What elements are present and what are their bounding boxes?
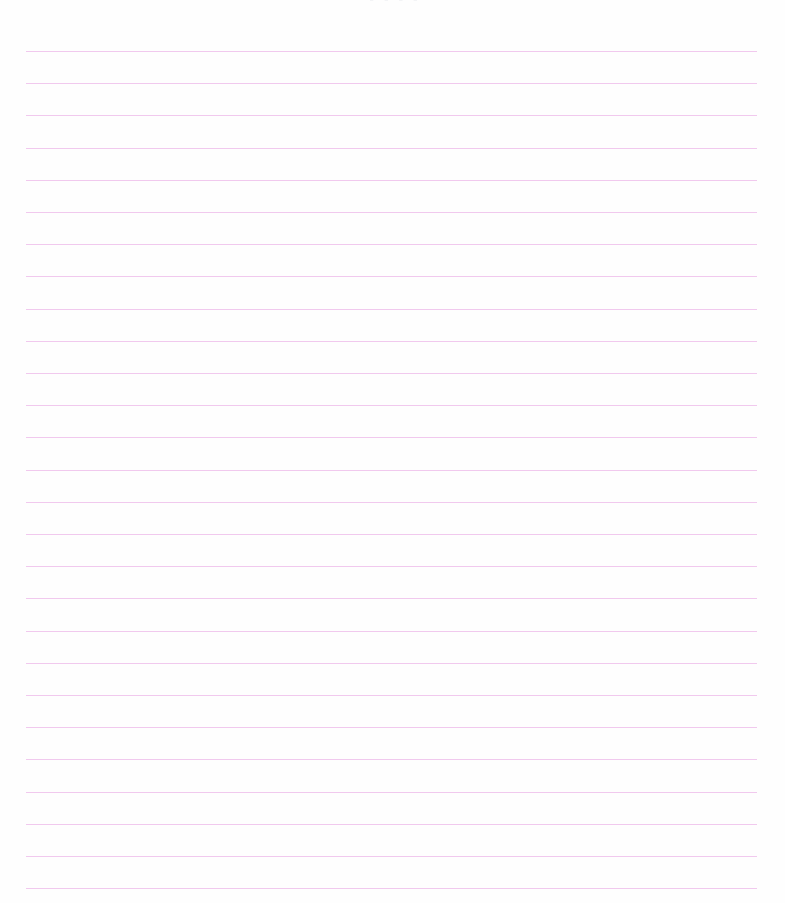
ruled-line: [26, 180, 757, 181]
page-header-fragment: - - - -: [355, 0, 435, 7]
ruled-line: [26, 566, 757, 567]
ruled-line: [26, 856, 757, 857]
ruled-line: [26, 824, 757, 825]
ruled-line: [26, 759, 757, 760]
ruled-line: [26, 792, 757, 793]
ruled-line: [26, 663, 757, 664]
ruled-line: [26, 888, 757, 889]
ruled-line: [26, 83, 757, 84]
ruled-line: [26, 276, 757, 277]
ruled-line: [26, 502, 757, 503]
ruled-line: [26, 405, 757, 406]
ruled-line: [26, 631, 757, 632]
ruled-line: [26, 115, 757, 116]
ruled-line: [26, 341, 757, 342]
ruled-line: [26, 51, 757, 52]
ruled-line: [26, 309, 757, 310]
ruled-line: [26, 695, 757, 696]
ruled-line: [26, 212, 757, 213]
ruled-line: [26, 244, 757, 245]
ruled-line: [26, 727, 757, 728]
notebook-page: - - - -: [0, 0, 785, 903]
ruled-line: [26, 148, 757, 149]
ruled-line: [26, 598, 757, 599]
ruled-line: [26, 470, 757, 471]
ruled-line: [26, 373, 757, 374]
ruled-line: [26, 534, 757, 535]
ruled-line: [26, 437, 757, 438]
